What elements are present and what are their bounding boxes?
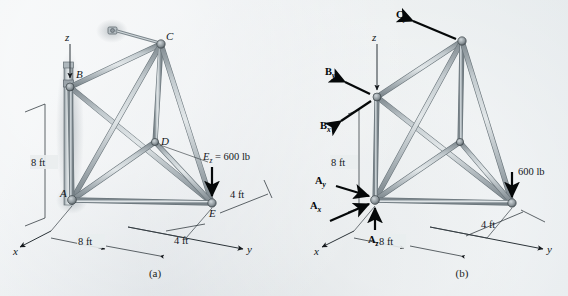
reaction-subscript-Ax: x <box>317 205 322 214</box>
joint-B <box>66 83 74 91</box>
member-A-B <box>70 87 72 200</box>
axis-y-label-a: y <box>246 243 252 255</box>
member-C-D <box>155 44 161 142</box>
joint-label-B-a: B <box>76 68 83 80</box>
reaction-subscript-Cy: y <box>403 14 408 23</box>
dim-4ft-near-a <box>166 224 205 231</box>
load-equals-a: = <box>212 151 223 162</box>
joint-C-b <box>458 37 466 45</box>
reaction-subscript-By: y <box>331 71 336 80</box>
joint-D-b <box>456 138 463 145</box>
member-C-E-b <box>462 41 512 203</box>
dim-4ft-right-a <box>220 180 272 213</box>
panel-a: z x y 8 ft <box>12 19 272 280</box>
member-A-B-b <box>375 97 377 200</box>
axis-y-label-b: y <box>546 243 552 255</box>
axis-z-label-a: z <box>64 31 70 43</box>
member-A-E <box>72 200 212 203</box>
svg-text:Ez = 600 lb: Ez = 600 lb <box>202 151 250 165</box>
dim-4ft-b <box>466 210 545 236</box>
joint-E <box>208 199 216 207</box>
reaction-subscript-Bx: x <box>326 125 331 134</box>
reaction-label-Bx: Bx <box>320 120 331 134</box>
figure-space-truss: z x y 8 ft <box>0 0 568 296</box>
reaction-arrow-Ay <box>336 186 369 196</box>
caption-a: (a) <box>149 267 162 280</box>
load-label-b: 600 lb <box>518 166 545 177</box>
dim-span-y-a-label: 8 ft <box>78 236 92 247</box>
truss-members-b <box>375 41 512 203</box>
dim-height-a-label: 8 ft <box>31 157 45 168</box>
joint-C <box>157 40 165 48</box>
reaction-label-Ax: Ax <box>310 200 322 214</box>
joint-label-A-a: A <box>59 187 67 199</box>
load-value-a: 600 lb <box>224 151 251 162</box>
member-C-D-b <box>460 41 462 142</box>
reaction-label-Cy: Cy <box>396 9 408 23</box>
axis-x-label-b: x <box>313 245 319 257</box>
axis-x-b <box>322 231 354 247</box>
joint-label-C-a: C <box>166 30 174 42</box>
truss-members-a <box>70 44 212 203</box>
joint-label-E-a: E <box>208 207 216 219</box>
axis-z-label-b: z <box>371 31 377 43</box>
dim-4ft-near-a-label: 4 ft <box>174 235 188 246</box>
joint-A <box>68 196 77 205</box>
reaction-label-By: By <box>325 66 336 80</box>
reaction-symbol-Bx: B <box>320 120 327 131</box>
joint-A-b <box>371 196 380 205</box>
joint-B-b <box>373 93 381 101</box>
reaction-arrow-Ax <box>330 204 369 221</box>
joint-label-D-a: D <box>160 135 169 147</box>
member-A-C-b <box>375 41 462 200</box>
member-A-D <box>72 142 155 200</box>
reaction-subscript-Az: z <box>375 239 379 248</box>
joint-E-b <box>508 199 516 207</box>
figure-canvas: z x y 8 ft <box>0 0 568 296</box>
reaction-subscript-Ay: y <box>322 180 327 189</box>
caption-b: (b) <box>456 267 469 280</box>
reaction-symbol-Cy: C <box>396 9 404 20</box>
reaction-label-Az: Az <box>368 234 379 248</box>
member-A-E-b <box>375 200 512 203</box>
dim-height-b-label: 8 ft <box>331 157 345 168</box>
panel-b: z x y 8 ft <box>310 9 552 280</box>
axis-x-label-a: x <box>12 245 18 257</box>
reaction-symbol-By: B <box>325 66 332 77</box>
load-label-a: Ez = 600 lb <box>202 151 250 165</box>
member-A-D-b <box>375 142 460 200</box>
dim-span-y-a <box>51 238 160 256</box>
reaction-label-Ay: Ay <box>315 175 327 189</box>
axis-x-a <box>20 231 51 247</box>
joint-D <box>151 138 158 145</box>
dim-span-y-b-label: 8 ft <box>379 236 393 247</box>
reaction-arrow-Cy <box>413 21 456 39</box>
reaction-arrow-Bx <box>341 101 371 121</box>
reaction-arrow-By <box>345 82 370 94</box>
dim-4ft-right-a-label: 4 ft <box>230 189 244 200</box>
dim-4ft-b-label: 4 ft <box>481 219 495 230</box>
